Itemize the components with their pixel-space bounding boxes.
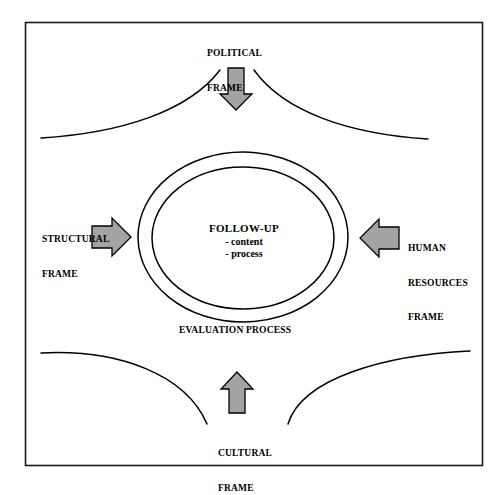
label-structural-frame: STRUCTURAL FRAME bbox=[42, 211, 109, 303]
label-political-frame: POLITICAL FRAME bbox=[207, 25, 262, 117]
label-cultural-frame: CULTURAL FRAME bbox=[218, 425, 272, 495]
center-title: FOLLOW-UP bbox=[180, 222, 308, 235]
center-bullet-content: - content bbox=[180, 236, 308, 248]
center-bullets: - content - process bbox=[180, 236, 308, 260]
label-political-line1: POLITICAL bbox=[207, 48, 262, 60]
label-political-line2: FRAME bbox=[207, 83, 262, 95]
center-bullet-process: - process bbox=[180, 248, 308, 260]
label-human-line3: FRAME bbox=[408, 312, 468, 324]
label-cultural-line1: CULTURAL bbox=[218, 448, 272, 460]
label-structural-line2: FRAME bbox=[42, 269, 109, 281]
label-evaluation-process: EVALUATION PROCESS bbox=[179, 325, 291, 337]
center-content: FOLLOW-UP - content - process bbox=[180, 222, 308, 260]
label-human-line2: RESOURCES bbox=[408, 278, 468, 290]
label-cultural-line2: FRAME bbox=[218, 483, 272, 495]
label-human-resources-frame: HUMAN RESOURCES FRAME bbox=[408, 220, 468, 347]
label-structural-line1: STRUCTURAL bbox=[42, 234, 109, 246]
label-human-line1: HUMAN bbox=[408, 243, 468, 255]
